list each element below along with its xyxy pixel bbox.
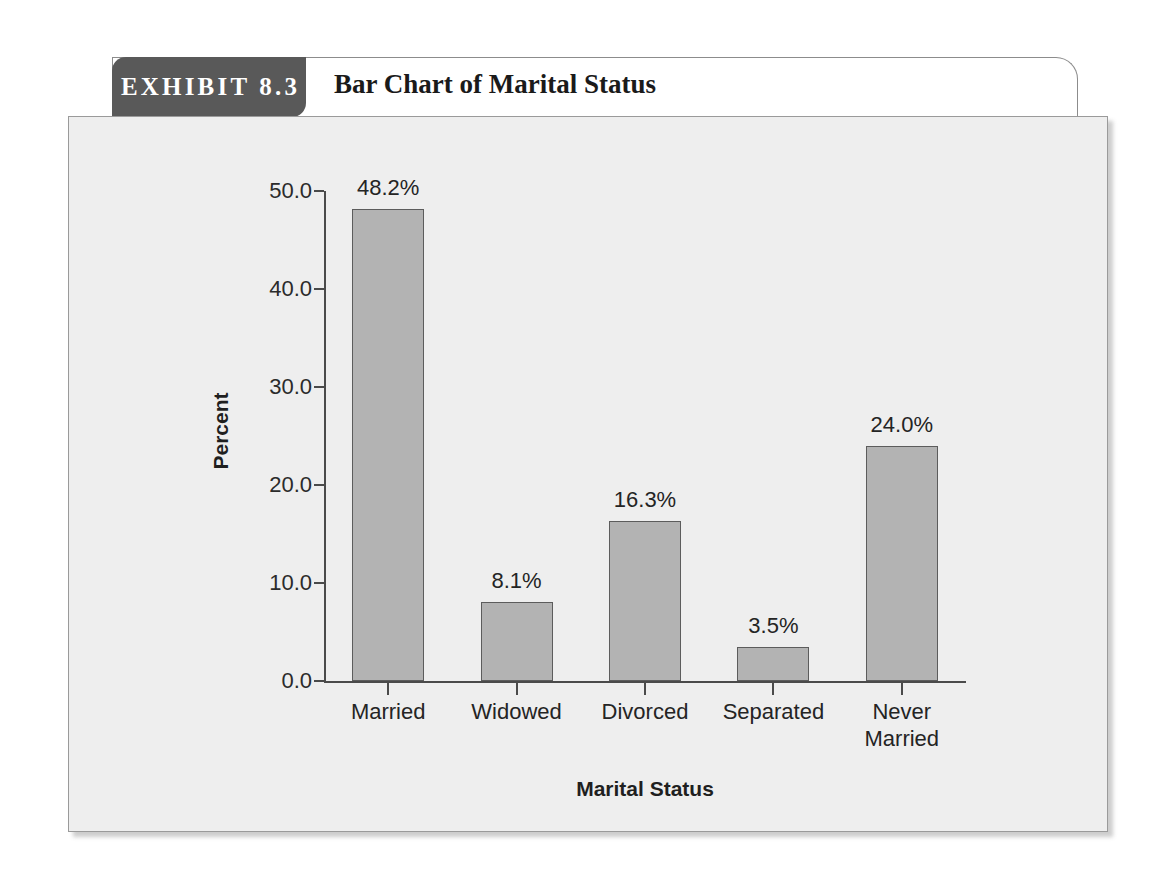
exhibit-figure: EXHIBIT 8.3 Bar Chart of Marital Status … — [0, 0, 1174, 889]
y-tick-label: 20.0 — [224, 472, 312, 498]
bar — [737, 647, 809, 681]
bar — [481, 602, 553, 681]
y-tick-label: 40.0 — [224, 276, 312, 302]
x-tick-mark — [644, 683, 646, 695]
x-axis-title: Marital Status — [576, 777, 714, 801]
exhibit-number-tab: EXHIBIT 8.3 — [112, 57, 306, 117]
x-category-label: Widowed — [471, 699, 561, 726]
y-axis-title: Percent — [209, 392, 233, 469]
x-category-label: Never Married — [865, 699, 940, 753]
y-tick-mark — [314, 190, 324, 192]
x-category-label: Married — [351, 699, 426, 726]
y-tick-mark — [314, 680, 324, 682]
y-tick-label: 0.0 — [224, 668, 312, 694]
y-tick-label: 30.0 — [224, 374, 312, 400]
bar-value-label: 16.3% — [614, 487, 676, 513]
bar-value-label: 8.1% — [492, 568, 542, 594]
y-tick-mark — [314, 582, 324, 584]
bar-value-label: 48.2% — [357, 175, 419, 201]
y-tick-label: 50.0 — [224, 178, 312, 204]
bar — [352, 209, 424, 681]
x-tick-mark — [516, 683, 518, 695]
x-tick-mark — [772, 683, 774, 695]
y-tick-label: 10.0 — [224, 570, 312, 596]
exhibit-number-label: EXHIBIT 8.3 — [118, 73, 300, 101]
bar — [609, 521, 681, 681]
x-tick-mark — [901, 683, 903, 695]
exhibit-title: Bar Chart of Marital Status — [334, 69, 656, 100]
bar — [866, 446, 938, 681]
plot-area: Percent 0.010.020.030.040.050.0 48.2%8.1… — [69, 117, 1107, 831]
y-tick-mark — [314, 288, 324, 290]
y-tick-mark — [314, 484, 324, 486]
chart-panel: Percent 0.010.020.030.040.050.0 48.2%8.1… — [68, 116, 1108, 832]
x-category-label: Separated — [723, 699, 825, 726]
bar-value-label: 3.5% — [748, 613, 798, 639]
x-category-label: Divorced — [602, 699, 689, 726]
y-tick-mark — [314, 386, 324, 388]
bar-value-label: 24.0% — [871, 412, 933, 438]
y-axis-line — [324, 191, 326, 683]
x-tick-mark — [387, 683, 389, 695]
